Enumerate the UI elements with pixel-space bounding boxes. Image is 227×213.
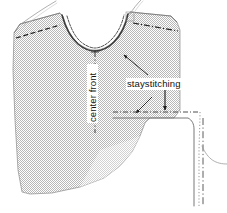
staystitching-label-text: staystitching [127,78,181,89]
center-front-label: center front [87,64,98,123]
pattern-illustration-canvas: center front staystitching [0,0,227,213]
detail-curved-thread [202,146,227,164]
staystitching-label: staystitching [126,78,190,90]
center-front-label-text: center front [87,72,98,122]
pattern-illustration-figure: center front staystitching [0,0,227,213]
